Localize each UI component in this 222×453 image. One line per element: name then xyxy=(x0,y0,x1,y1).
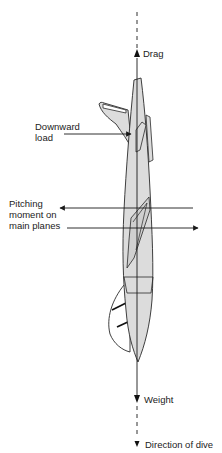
pitching-label-line3: main planes xyxy=(9,220,60,231)
tailplane xyxy=(99,102,132,150)
downward-load-label-line1: Downward xyxy=(35,121,80,132)
drag-arrow-icon xyxy=(134,49,140,57)
weight-label: Weight xyxy=(144,394,173,405)
pitching-label-line2: moment on xyxy=(9,209,57,220)
weight-arrow-icon xyxy=(134,395,140,403)
dive-arrow-icon xyxy=(135,441,140,447)
downward-load-label-line2: load xyxy=(35,132,53,143)
drag-label: Drag xyxy=(143,48,164,59)
direction-of-dive-label: Direction of dive xyxy=(145,439,213,450)
pitching-label-line1: Pitching xyxy=(9,198,43,209)
